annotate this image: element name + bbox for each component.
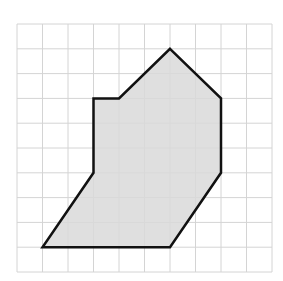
grid-polygon-figure (0, 0, 283, 281)
